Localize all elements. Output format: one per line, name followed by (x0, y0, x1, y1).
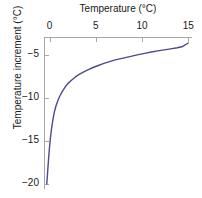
y-tick-label: −10 (13, 91, 39, 102)
chart-figure: Temperature (°C) Temperature increment (… (0, 0, 202, 198)
x-tick-label: 15 (175, 20, 201, 31)
plot-area (44, 37, 192, 189)
x-tick-label: 5 (83, 20, 109, 31)
y-tick-label: −5 (13, 48, 39, 59)
curve-path (47, 43, 189, 184)
data-line-series (44, 37, 192, 189)
x-tick-label: 0 (37, 20, 63, 31)
y-tick-label: −20 (13, 177, 39, 188)
x-axis-title: Temperature (°C) (44, 3, 192, 14)
y-tick-label: −15 (13, 134, 39, 145)
y-axis-title: Temperature increment (°C) (12, 0, 23, 143)
x-tick-label: 10 (129, 20, 155, 31)
